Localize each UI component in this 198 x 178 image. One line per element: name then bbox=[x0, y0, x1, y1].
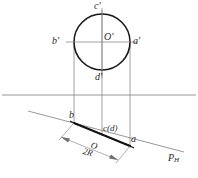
label-b: b bbox=[69, 110, 74, 120]
technical-drawing-canvas: c' b' O' a' d' b c(d) O 2R a PH bbox=[0, 0, 198, 178]
dimension-arrow-right bbox=[109, 155, 118, 161]
label-trace-ph-subscript: H bbox=[174, 156, 179, 164]
extension-line-right bbox=[116, 146, 130, 163]
label-c-d: c(d) bbox=[103, 124, 118, 133]
label-o-prime: O' bbox=[104, 32, 113, 42]
label-trace-ph: PH bbox=[168, 153, 179, 164]
label-a-prime: a' bbox=[133, 36, 140, 46]
label-b-prime: b' bbox=[52, 36, 59, 46]
label-c-prime: c' bbox=[94, 1, 101, 11]
front-view-group bbox=[66, 8, 138, 78]
label-a: a bbox=[131, 134, 136, 144]
dimension-arrow-left bbox=[61, 137, 70, 143]
label-d-prime: d' bbox=[95, 72, 102, 82]
